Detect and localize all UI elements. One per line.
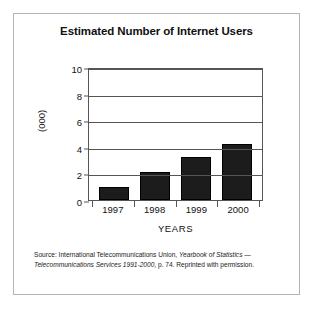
x-tick-mark xyxy=(217,201,218,207)
y-tick-label: 6 xyxy=(77,117,89,128)
chart-title: Estimated Number of Internet Users xyxy=(14,25,299,37)
x-tick-mark xyxy=(259,201,260,207)
y-tick-label: 4 xyxy=(77,143,89,154)
x-axis-label: YEARS xyxy=(88,223,263,234)
x-tick-label: 2000 xyxy=(223,204,253,215)
bar-1999 xyxy=(181,157,211,200)
x-tick-mark xyxy=(92,201,93,207)
bar-series xyxy=(89,69,262,200)
gridline xyxy=(89,69,262,70)
y-tick-label: 2 xyxy=(77,170,89,181)
x-tick-label: 1997 xyxy=(98,204,128,215)
bar-2000 xyxy=(222,144,252,200)
y-tick-label: 10 xyxy=(71,64,89,75)
x-tick-label: 1998 xyxy=(140,204,170,215)
y-axis-label: (000) xyxy=(36,110,47,132)
figure-frame: Estimated Number of Internet Users (000)… xyxy=(13,13,300,295)
x-tick-mark xyxy=(134,201,135,207)
plot-area: 0246810 xyxy=(88,68,263,201)
gridline xyxy=(89,175,262,176)
gridline xyxy=(89,122,262,123)
bar-1997 xyxy=(99,187,129,200)
source-note: Source: International Telecommunications… xyxy=(34,250,284,270)
gridline xyxy=(89,96,262,97)
gridline xyxy=(89,149,262,150)
x-tick-mark xyxy=(176,201,177,207)
y-tick-label: 8 xyxy=(77,90,89,101)
x-tick-label: 1999 xyxy=(181,204,211,215)
